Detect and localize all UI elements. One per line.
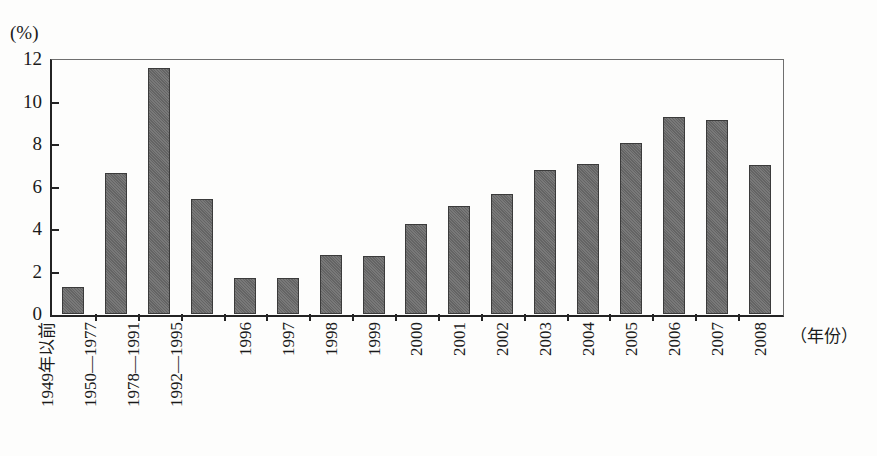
x-axis-tick-label: 2006 [665, 322, 682, 356]
y-axis-tick-label: 4 [0, 218, 42, 240]
x-label-slot: 1999 [352, 322, 395, 442]
bar [191, 199, 213, 314]
bar-slot [652, 59, 695, 314]
x-label-slot: 2001 [438, 322, 481, 442]
x-label-slot: 1992—1995 [181, 322, 224, 442]
x-axis-tick [481, 314, 483, 321]
x-axis-tick-label: 2004 [580, 322, 597, 356]
bar-slot [309, 59, 352, 314]
x-label-slot: 2003 [524, 322, 567, 442]
x-axis-tick-label: 2005 [622, 322, 639, 356]
bar [234, 278, 256, 314]
y-axis-tick-label: 2 [0, 261, 42, 283]
x-axis-tick [738, 314, 740, 321]
x-axis-tick-label: 2008 [751, 322, 768, 356]
y-axis-tick-label: 8 [0, 133, 42, 155]
x-axis-tick-label: 1999 [365, 322, 382, 356]
bar-series [52, 59, 781, 314]
x-axis-tick-label: 1998 [322, 322, 339, 356]
chart-figure: (%) 024681012 1949年以前1950—19771978—19911… [0, 0, 877, 456]
bar [148, 68, 170, 315]
y-axis-tick-label: 10 [0, 91, 42, 113]
x-axis-tick-label: 1949年以前 [39, 322, 56, 407]
x-axis-unit-label: （年份） [790, 322, 858, 347]
y-axis-tick-label: 12 [0, 48, 42, 70]
bar [491, 194, 513, 314]
bar [577, 164, 599, 314]
bar-slot [52, 59, 95, 314]
x-label-slot: 2004 [567, 322, 610, 442]
bar [448, 206, 470, 314]
x-axis-tick [352, 314, 354, 321]
x-axis-tick [609, 314, 611, 321]
bar-slot [738, 59, 781, 314]
x-axis-tick [652, 314, 654, 321]
x-axis-tick [138, 314, 140, 321]
bar [320, 255, 342, 315]
x-axis-tick [524, 314, 526, 321]
bar-slot [438, 59, 481, 314]
x-axis-tick-label: 2001 [451, 322, 468, 356]
x-axis-tick-label: 2000 [408, 322, 425, 356]
x-axis-tick-label: 2002 [494, 322, 511, 356]
bar-slot [567, 59, 610, 314]
y-axis-tick-label: 0 [0, 303, 42, 325]
x-axis-tick-label: 1950—1977 [82, 322, 99, 407]
bar-slot [352, 59, 395, 314]
x-axis-tick-label: 1978—1991 [125, 322, 142, 407]
x-axis-tick [567, 314, 569, 321]
bar [105, 173, 127, 314]
x-label-slot: 2000 [395, 322, 438, 442]
x-axis-tick [266, 314, 268, 321]
x-axis-tick [95, 314, 97, 321]
x-axis-tick [224, 314, 226, 321]
y-axis-tick-label: 6 [0, 176, 42, 198]
x-axis-tick [695, 314, 697, 321]
x-axis-tick [309, 314, 311, 321]
x-axis-tick-label: 2007 [708, 322, 725, 356]
x-label-slot: 2008 [738, 322, 781, 442]
x-axis-tick-labels: 1949年以前1950—19771978—19911992—1995199619… [52, 322, 781, 442]
bar [706, 120, 728, 314]
bar-slot [395, 59, 438, 314]
x-label-slot: 2002 [481, 322, 524, 442]
bar-slot [138, 59, 181, 314]
bar-slot [695, 59, 738, 314]
x-axis-tick-label: 2003 [537, 322, 554, 356]
bar-slot [181, 59, 224, 314]
bar [405, 224, 427, 314]
bar [663, 117, 685, 314]
bar-slot [224, 59, 267, 314]
bar [620, 143, 642, 314]
x-axis-tick [438, 314, 440, 321]
y-axis-tick-labels: 024681012 [0, 59, 42, 314]
bar-slot [95, 59, 138, 314]
x-axis-tick [181, 314, 183, 321]
x-axis-tick [395, 314, 397, 321]
x-label-slot: 1997 [266, 322, 309, 442]
bar [62, 287, 84, 314]
bar-slot [266, 59, 309, 314]
y-axis-unit-label: (%) [10, 22, 38, 44]
x-axis-tick-label: 1996 [236, 322, 253, 356]
bar [534, 170, 556, 315]
x-axis-tick-label: 1997 [279, 322, 296, 356]
x-label-slot: 2006 [652, 322, 695, 442]
x-label-slot: 1998 [309, 322, 352, 442]
bar-slot [524, 59, 567, 314]
x-label-slot: 2005 [609, 322, 652, 442]
bar [277, 278, 299, 314]
x-label-slot: 2007 [695, 322, 738, 442]
bar [749, 165, 771, 314]
x-label-slot: 1996 [224, 322, 267, 442]
bar-slot [609, 59, 652, 314]
bar-slot [481, 59, 524, 314]
x-axis-tick-label: 1992—1995 [168, 322, 185, 407]
bar [363, 256, 385, 314]
